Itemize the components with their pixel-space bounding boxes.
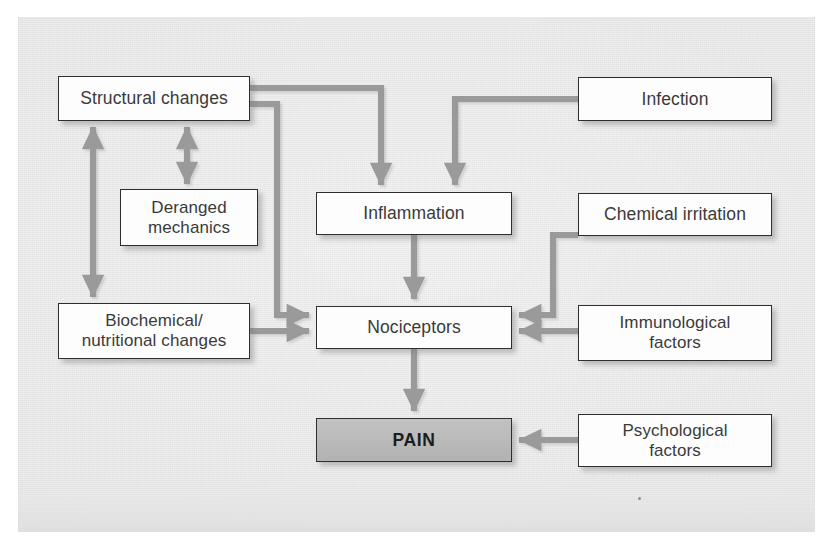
edge-structural-to-nociceptors: [250, 104, 309, 315]
node-label: Nociceptors: [367, 317, 461, 337]
node-label: Chemical irritation: [604, 204, 746, 224]
figure-canvas: Structural changes Deranged mechanics Bi…: [0, 0, 832, 551]
node-structural-changes[interactable]: Structural changes: [58, 76, 250, 121]
node-label: PAIN: [393, 430, 436, 450]
node-inflammation[interactable]: Inflammation: [316, 192, 512, 235]
node-deranged-mechanics[interactable]: Deranged mechanics: [120, 189, 258, 246]
node-label: Structural changes: [80, 88, 228, 108]
node-label: Deranged mechanics: [148, 198, 230, 238]
node-nociceptors[interactable]: Nociceptors: [316, 306, 512, 349]
node-label: Immunological factors: [620, 313, 731, 353]
node-label: Psychological factors: [622, 421, 727, 461]
node-biochemical-nutritional-changes[interactable]: Biochemical/ nutritional changes: [58, 303, 250, 359]
node-infection[interactable]: Infection: [578, 77, 772, 121]
edge-chemical-to-nociceptors: [519, 235, 578, 315]
node-pain[interactable]: PAIN: [316, 418, 512, 462]
node-label: Inflammation: [363, 203, 464, 223]
node-chemical-irritation[interactable]: Chemical irritation: [578, 193, 772, 236]
node-label: Infection: [641, 89, 708, 109]
node-immunological-factors[interactable]: Immunological factors: [578, 305, 772, 361]
node-psychological-factors[interactable]: Psychological factors: [578, 414, 772, 467]
node-label: Biochemical/ nutritional changes: [82, 311, 227, 351]
edge-infection-to-inflammation: [455, 99, 578, 185]
ink-speck: [638, 497, 641, 500]
